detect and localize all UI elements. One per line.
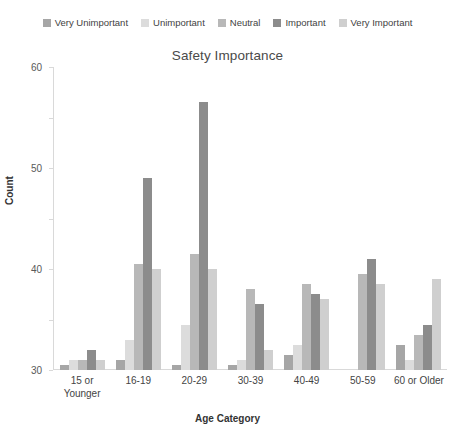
y-axis-tick-label: 30 [31,365,42,376]
bar-group [279,67,335,370]
y-axis-tick-mark: 10 [49,320,53,321]
legend-item[interactable]: Neutral [218,18,261,28]
bar [311,294,320,370]
legend-item-label: Very Important [351,18,413,28]
bar [237,360,246,370]
bar [284,355,293,370]
bar [264,350,273,370]
bar [143,178,152,370]
y-axis-tick-mark: 30 [49,219,53,220]
legend-item-label: Important [285,18,325,28]
bar [376,284,385,370]
y-axis-tick-mark: 60 [49,67,53,68]
x-axis-category-label-line: 60 or Older [391,374,447,387]
legend-item[interactable]: Very Important [339,18,413,28]
x-axis-category-label-line: 16-19 [110,374,166,387]
x-axis-title: Age Category [0,413,455,424]
bar [423,325,432,370]
x-axis-category-label: 40-49 [279,374,335,400]
bar-group [166,67,222,370]
x-axis-category-label: 15 orYounger [54,374,110,400]
y-axis-tick-mark: 0 [49,370,53,371]
bar [78,360,87,370]
bar [134,264,143,370]
bar [414,335,423,370]
y-axis-tick-mark: 40 [49,168,53,169]
bar [190,254,199,370]
legend-item-label: Unimportant [153,18,205,28]
legend-item[interactable]: Unimportant [141,18,205,28]
bar-group [222,67,278,370]
x-axis-category-label: 20-29 [166,374,222,400]
bar [125,340,134,370]
plot-area: 0102030405060 [53,67,447,370]
y-axis-tick-mark: 50 [49,118,53,119]
bar [293,345,302,370]
bar [60,365,69,370]
bar [69,360,78,370]
chart-title: Safety Importance [0,48,455,63]
bar [396,345,405,370]
bar [405,360,414,370]
bar [208,269,217,370]
y-axis-tick-label: 40 [31,264,42,275]
x-axis-category-label: 16-19 [110,374,166,400]
bar-group [110,67,166,370]
bar-group [391,67,447,370]
x-axis-category-label-line: 50-59 [335,374,391,387]
bar-groups [54,67,447,370]
bar [358,274,367,370]
safety-importance-chart: Very UnimportantUnimportantNeutralImport… [0,0,455,444]
bar-group [54,67,110,370]
legend-item-label: Very Unimportant [55,18,128,28]
bar [320,299,329,370]
legend-item[interactable]: Important [273,18,325,28]
y-axis-title: Count [4,176,15,205]
bar [96,360,105,370]
x-axis-category-label-line: 30-39 [222,374,278,387]
x-axis-category-label-line: 15 or [54,374,110,387]
x-axis-category-label: 50-59 [335,374,391,400]
bar [172,365,181,370]
legend-swatch-icon [273,19,281,27]
y-axis-tick-label: 60 [31,62,42,73]
bar [181,325,190,370]
legend-item[interactable]: Very Unimportant [43,18,128,28]
bar [116,360,125,370]
bar [199,102,208,370]
x-axis-category-label-line: 40-49 [279,374,335,387]
bar [228,365,237,370]
bar [246,289,255,370]
legend-swatch-icon [218,19,226,27]
bar [152,269,161,370]
y-axis-tick-mark: 20 [49,269,53,270]
legend-swatch-icon [43,19,51,27]
bar-group [335,67,391,370]
legend-swatch-icon [141,19,149,27]
x-axis-category-label-line: 20-29 [166,374,222,387]
legend-swatch-icon [339,19,347,27]
legend-item-label: Neutral [230,18,261,28]
x-axis-category-label: 30-39 [222,374,278,400]
y-axis-tick-label: 50 [31,163,42,174]
bar [87,350,96,370]
x-axis-category-label-line: Younger [54,387,110,400]
bar [302,284,311,370]
x-axis-category-label: 60 or Older [391,374,447,400]
bar [367,259,376,370]
bar [432,279,441,370]
chart-legend: Very UnimportantUnimportantNeutralImport… [0,18,455,28]
x-axis-category-labels: 15 orYounger16-1920-2930-3940-4950-5960 … [54,374,447,400]
bar [255,304,264,370]
